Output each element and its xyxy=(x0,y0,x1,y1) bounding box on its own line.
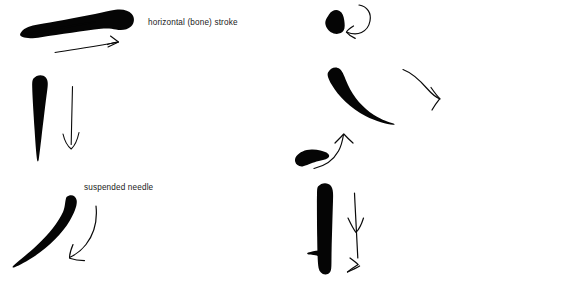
sweeping-leftward-ink xyxy=(13,195,77,267)
horizontal-bone-stroke-figure xyxy=(0,0,150,62)
long-hook-ink xyxy=(317,183,333,274)
sweeping-rightward-stroke-figure xyxy=(310,55,470,135)
leftward-dot-ink xyxy=(325,10,344,34)
small-hook-ink xyxy=(295,149,329,166)
suspended-needle-figure xyxy=(0,70,110,175)
long-hook-ink-hook-flick xyxy=(307,251,319,257)
bone-stroke-ink xyxy=(20,9,134,38)
leftward-dot-figure xyxy=(310,0,400,55)
long-hook-direction-arrow xyxy=(348,193,364,272)
stroke-reference-diagram: horizontal (bone) stroke suspended needl… xyxy=(0,0,568,286)
needle-direction-arrow xyxy=(63,87,79,150)
caption-horizontal-bone-stroke: horizontal (bone) stroke xyxy=(148,18,238,27)
leftward-dot-direction-arrow xyxy=(346,5,370,38)
sweeping-leftward-stroke-figure xyxy=(0,180,130,280)
long-hook-figure xyxy=(290,178,410,286)
sweeping-rightward-direction-arrow xyxy=(403,70,440,111)
bone-stroke-direction-arrow xyxy=(55,36,119,53)
sweeping-leftward-direction-arrow xyxy=(70,206,97,261)
needle-stroke-ink xyxy=(32,75,48,161)
sweeping-rightward-ink xyxy=(328,67,395,124)
